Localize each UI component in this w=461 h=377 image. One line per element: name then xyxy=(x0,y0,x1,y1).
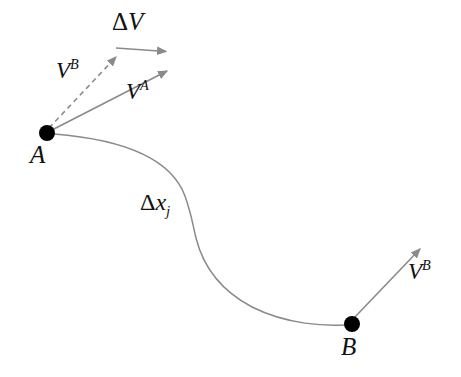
label-point-b: B xyxy=(341,334,356,359)
subscript-j: j xyxy=(166,203,170,219)
label-vb-at-a: VB xyxy=(56,57,79,82)
point-b-marker xyxy=(344,316,360,332)
superscript-b: B xyxy=(70,56,79,72)
trajectory-curve xyxy=(54,134,345,325)
vector-delta-v xyxy=(116,48,166,52)
vector-diagram-canvas: ΔV VB VA A Δxj VB B xyxy=(0,0,461,377)
x-symbol: x xyxy=(155,189,166,215)
label-vb-at-b: VB xyxy=(408,258,431,283)
v-symbol: V xyxy=(408,259,422,284)
delta-symbol: Δ xyxy=(112,8,128,35)
superscript-a: A xyxy=(140,77,149,93)
superscript-b: B xyxy=(422,257,431,273)
point-a-marker xyxy=(39,125,55,141)
label-point-a: A xyxy=(30,142,45,167)
label-delta-v: ΔV xyxy=(112,9,143,34)
v-symbol: V xyxy=(128,8,143,35)
label-delta-xj: Δxj xyxy=(140,190,170,219)
label-va: VA xyxy=(126,78,149,103)
v-symbol: V xyxy=(126,79,140,104)
v-symbol: V xyxy=(56,58,70,83)
delta-symbol: Δ xyxy=(140,189,155,215)
